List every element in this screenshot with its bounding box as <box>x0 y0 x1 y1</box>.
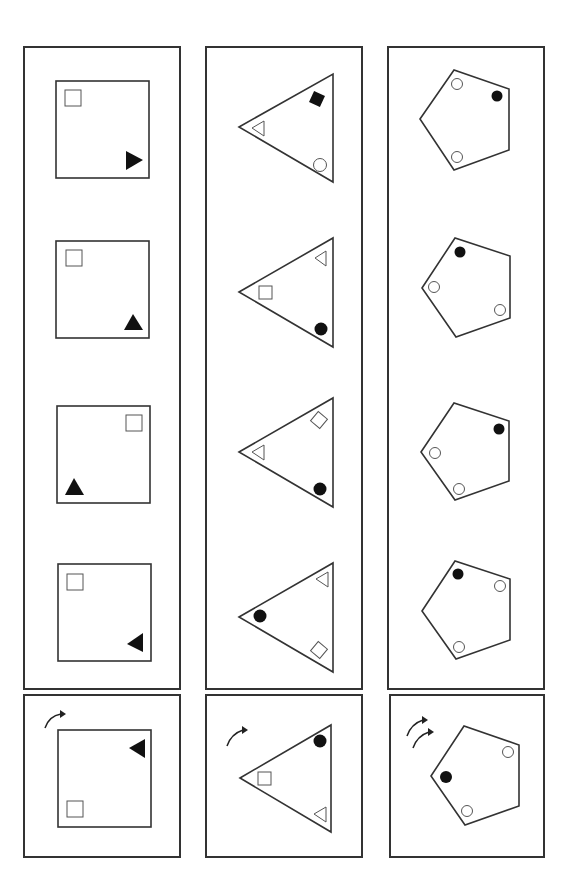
white-square-icon <box>311 412 328 429</box>
white-circle-icon <box>495 581 506 592</box>
black-circle-icon <box>314 735 327 748</box>
black-triangle-up-icon <box>65 478 84 495</box>
black-circle-icon <box>314 483 327 496</box>
white-circle-icon <box>495 305 506 316</box>
rotation-arrow-icon <box>45 714 61 728</box>
sequence-cell-1 <box>56 81 149 178</box>
white-circle-icon <box>503 747 514 758</box>
pentagon-sequence-figures <box>389 48 543 688</box>
square-answer-panel[interactable] <box>23 694 181 858</box>
sequence-cell-2 <box>239 238 333 347</box>
black-circle-icon <box>494 424 505 435</box>
white-circle-icon <box>454 484 465 495</box>
white-square-icon <box>65 90 81 106</box>
sequence-cell-4 <box>422 561 510 659</box>
black-square-icon <box>309 91 325 107</box>
white-circle-icon <box>452 79 463 90</box>
white-circle-icon <box>314 159 327 172</box>
white-triangle-icon <box>315 251 326 266</box>
white-triangle-icon <box>316 572 328 587</box>
sequence-cell-3 <box>421 403 509 500</box>
pentagon-answer-figure <box>391 696 543 856</box>
black-triangle-right-icon <box>126 151 143 170</box>
black-circle-icon <box>455 247 466 258</box>
black-circle-icon <box>440 771 452 783</box>
white-square-icon <box>311 642 328 659</box>
white-triangle-icon <box>252 445 264 460</box>
white-square-icon <box>259 286 272 299</box>
sequence-cell-4 <box>239 563 333 672</box>
triangle-answer-figure <box>207 696 361 856</box>
pentagon-sequence-panel <box>387 46 545 690</box>
black-triangle-up-icon <box>124 314 143 330</box>
black-circle-icon <box>492 91 503 102</box>
white-circle-icon <box>429 282 440 293</box>
square-answer-figure <box>25 696 179 856</box>
white-square-icon <box>66 250 82 266</box>
white-triangle-icon <box>252 121 264 136</box>
square-sequence-figures <box>25 48 179 688</box>
triangle-answer-panel[interactable] <box>205 694 363 858</box>
black-triangle-left-icon <box>129 739 145 758</box>
sequence-cell-4 <box>58 564 151 661</box>
sequence-cell-3 <box>57 406 150 503</box>
black-circle-icon <box>315 323 328 336</box>
white-square-icon <box>126 415 142 431</box>
sequence-cell-2 <box>56 241 149 338</box>
triangle-sequence-panel <box>205 46 363 690</box>
black-circle-icon <box>453 569 464 580</box>
sequence-cell-1 <box>420 70 509 170</box>
black-triangle-left-icon <box>127 633 143 652</box>
white-triangle-icon <box>314 807 326 822</box>
white-circle-icon <box>454 642 465 653</box>
double-rotation-arrow-icon <box>407 716 434 748</box>
triangle-sequence-figures <box>207 48 361 688</box>
black-circle-icon <box>254 610 267 623</box>
white-square-icon <box>67 574 83 590</box>
pentagon-answer-panel[interactable] <box>389 694 545 858</box>
white-square-icon <box>67 801 83 817</box>
white-square-icon <box>258 772 271 785</box>
white-circle-icon <box>430 448 441 459</box>
sequence-cell-1 <box>239 74 333 182</box>
white-circle-icon <box>462 806 473 817</box>
white-circle-icon <box>452 152 463 163</box>
sequence-cell-2 <box>422 238 510 337</box>
rotation-arrow-icon <box>227 730 243 746</box>
square-sequence-panel <box>23 46 181 690</box>
sequence-cell-3 <box>239 398 333 507</box>
